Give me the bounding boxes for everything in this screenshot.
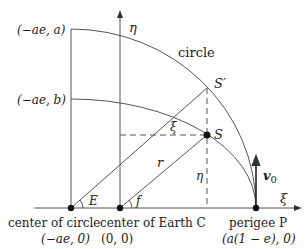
eta-axis-label: η (129, 20, 137, 35)
top-circle-label: (−ae, a) (17, 23, 66, 37)
circle-center-coords: (−ae, 0) (41, 232, 90, 246)
eta-segment-label: η (196, 169, 204, 183)
ellipse-arc (71, 99, 256, 208)
top-ellipse-label: (−ae, b) (17, 93, 66, 107)
angle-E-arc (80, 200, 83, 208)
circle-center-title: center of circle (8, 216, 100, 230)
circle-center-to-s-prime (71, 88, 207, 208)
circle-label: circle (178, 45, 215, 60)
xi-axis-label: ξ (280, 191, 288, 206)
circle-center-dot (68, 205, 74, 211)
perigee-dot (253, 205, 259, 211)
circle-arc (71, 29, 256, 208)
perigee-title: perigee P (229, 216, 287, 230)
satellite-S-dot (204, 132, 211, 139)
angle-E-label: E (88, 194, 98, 208)
s-label: S (214, 127, 223, 142)
radius-r-line (120, 135, 207, 208)
orbit-diagram: η ξ (−ae, a) (−ae, b) circle S′ S ξ η r … (0, 0, 308, 249)
earth-center-title: center of Earth C (100, 216, 206, 230)
angle-f-arc (129, 200, 132, 208)
s-prime-label: S′ (214, 76, 226, 91)
earth-center-coords: (0, 0) (101, 232, 133, 246)
velocity-label: v0 (263, 168, 277, 185)
angle-f-label: f (135, 194, 143, 208)
xi-segment-label: ξ (170, 120, 178, 134)
perigee-coords: (a(1 − e), 0) (222, 232, 296, 246)
r-segment-label: r (157, 155, 164, 170)
earth-center-dot (117, 205, 123, 211)
